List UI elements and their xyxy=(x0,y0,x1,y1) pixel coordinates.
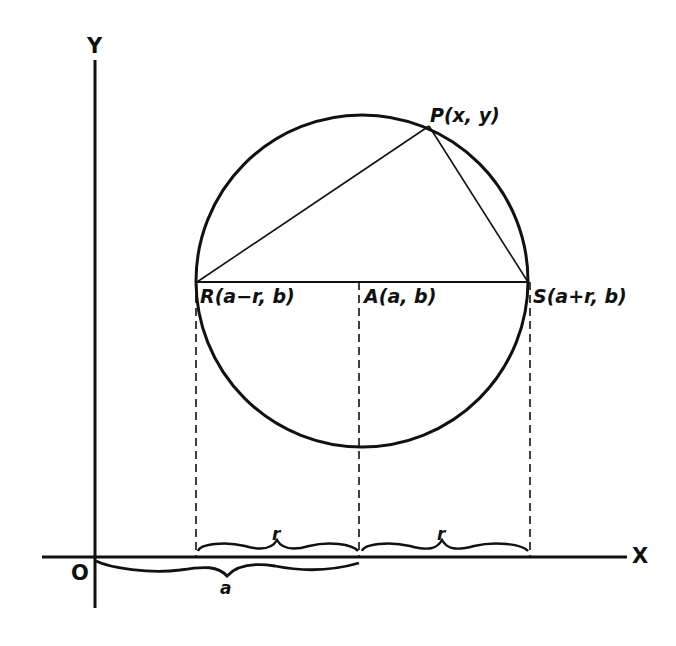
chord-pr xyxy=(197,126,429,282)
y-axis-label: Y xyxy=(87,36,102,57)
circle xyxy=(196,115,528,447)
point-s-label: S(a+r, b) xyxy=(533,287,627,306)
brace-a-label: a xyxy=(220,580,231,597)
point-p-label: P(x, y) xyxy=(430,106,500,125)
brace-r-right-label: r xyxy=(437,526,445,543)
brace-a xyxy=(96,561,359,576)
circle-diagram xyxy=(0,0,676,646)
point-r-label: R(a−r, b) xyxy=(200,287,295,306)
point-a-label: A(a, b) xyxy=(364,287,436,306)
x-axis-label: X xyxy=(632,546,648,567)
brace-r-left-label: r xyxy=(272,526,280,543)
chord-ps xyxy=(429,126,528,282)
origin-label: O xyxy=(71,563,89,584)
